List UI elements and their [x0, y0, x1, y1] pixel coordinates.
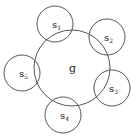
satellite-label-s5: s5: [19, 68, 28, 80]
satellite-label-s1: s1: [52, 19, 61, 31]
satellite-label-s3: s3: [109, 83, 118, 95]
center-label-g: g: [69, 62, 76, 75]
satellite-label-s2: s2: [104, 32, 113, 44]
satellite-label-s4: s4: [60, 110, 69, 122]
circle-diagram: gs1s2s3s4s5: [0, 0, 138, 140]
